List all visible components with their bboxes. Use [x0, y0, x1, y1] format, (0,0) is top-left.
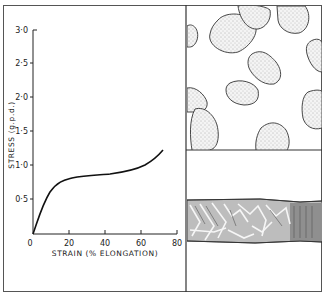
x-tick-label: 0: [27, 239, 32, 248]
x-tick-label: 60: [136, 239, 146, 248]
stress-strain-chart: 3·0 2·5 2·0 1·5 1·0 0·5 0 20 40 60 80 ST…: [7, 26, 182, 258]
y-tick-label: 1·5: [15, 127, 28, 136]
y-tick-label: 2·0: [15, 93, 28, 102]
stress-strain-curve: [33, 150, 163, 234]
figure-svg: 3·0 2·5 2·0 1·5 1·0 0·5 0 20 40 60 80 ST…: [0, 0, 328, 301]
fiber-cross-section-panel: [187, 5, 322, 150]
x-tick-label: 20: [64, 239, 74, 248]
fiber-longitudinal-panel: [187, 199, 322, 243]
x-ticks: [69, 230, 177, 234]
y-tick-label: 2·5: [15, 59, 28, 68]
x-tick-label: 80: [172, 239, 182, 248]
y-tick-label: 3·0: [15, 26, 28, 35]
y-tick-label: 1·0: [15, 161, 28, 170]
x-axis-label: STRAIN (% ELONGATION): [52, 249, 158, 258]
x-tick-label: 40: [100, 239, 110, 248]
y-tick-label: 0·5: [15, 195, 28, 204]
y-axis-label: STRESS (g.p.d.): [7, 101, 16, 168]
